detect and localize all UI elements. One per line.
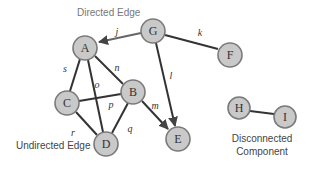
edge-q [112,103,128,133]
svg-text:E: E [174,132,181,146]
node-d: D [94,132,118,156]
undirected-edge-annotation: Undirected Edge [16,140,91,151]
edge-label-j: j [114,26,119,37]
edge-label-l: l [170,70,173,81]
svg-text:B: B [129,85,137,99]
edge-k [165,35,218,49]
edge-p [79,94,121,101]
edge-r [76,112,97,135]
edge-label-o: o [95,79,100,90]
edge-l-directed [156,43,175,126]
graph-diagram: j k l s n o p m q r A G F B C [0,0,317,171]
node-b: B [121,80,145,104]
node-e: E [166,127,190,151]
svg-text:I: I [283,110,287,124]
edge-o [88,60,103,132]
svg-text:D: D [102,137,111,151]
node-c: C [55,91,79,115]
svg-text:G: G [149,24,158,38]
edge-label-k: k [198,27,203,38]
edge-h-i [250,111,274,114]
edge-label-r: r [71,127,75,138]
edge-label-q: q [128,123,133,134]
edge-label-s: s [63,63,67,74]
node-h: H [228,97,250,119]
svg-text:F: F [227,48,234,62]
disconnected-annotation-line1: Disconnected [232,133,293,144]
node-g: G [141,19,165,43]
svg-text:C: C [63,96,71,110]
directed-edge-annotation: Directed Edge [77,7,141,18]
svg-text:A: A [81,41,90,55]
node-i: I [274,106,296,128]
edge-label-p: p [108,99,114,110]
edges [70,33,274,135]
disconnected-annotation-line2: Component [236,146,288,157]
edge-s [70,59,80,91]
edge-j-directed [99,33,141,42]
edge-label-m: m [151,100,158,111]
node-a: A [73,36,97,60]
node-f: F [218,43,242,67]
edge-label-n: n [115,62,120,73]
svg-text:H: H [235,101,244,115]
